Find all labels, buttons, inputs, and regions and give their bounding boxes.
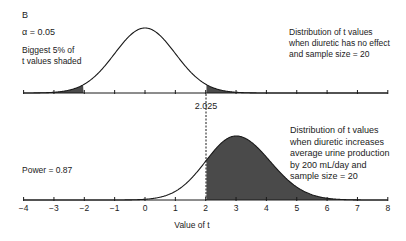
shaded-note: Biggest 5% of t values shaded [22,45,82,67]
x-tick-label: −4 [19,203,29,213]
x-tick-label: 3 [234,203,239,213]
x-axis-label: Value of t [174,220,210,230]
power-figure: −4−3−2−1012345678 2.025 Value of t B α =… [0,0,406,241]
x-tick-label: −2 [79,203,89,213]
x-tick-label: −3 [49,203,59,213]
x-tick-label: 7 [355,203,360,213]
x-tick-label: 0 [143,203,148,213]
x-tick-label: 2 [203,203,208,213]
power-label: Power = 0.87 [22,165,72,176]
x-tick-label: 1 [173,203,178,213]
alpha-label: α = 0.05 [22,27,55,38]
x-tick-label: 4 [264,203,269,213]
panel-label: B [22,10,28,21]
x-tick-label: 6 [325,203,330,213]
x-tick-label: 5 [294,203,299,213]
alternative-distribution-caption: Distribution of t values when diuretic i… [290,125,390,183]
critical-value-label: 2.025 [195,101,218,111]
x-tick-label: −1 [110,203,120,213]
null-distribution-caption: Distribution of t values when diuretic h… [289,27,390,60]
x-tick-label: 8 [385,203,390,213]
